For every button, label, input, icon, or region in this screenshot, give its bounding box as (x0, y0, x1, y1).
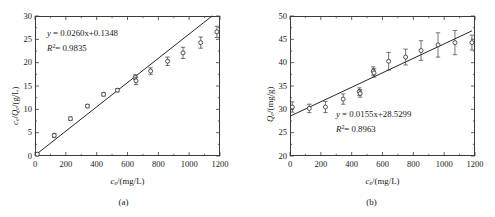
x-tick-label: 1200 (200, 160, 240, 169)
y-tick-label: 40 (270, 58, 287, 67)
y-tick-label: 45 (270, 35, 287, 44)
fit-equation-b: y = 0.0155x+28.5299 (336, 108, 411, 121)
chart-panel-a: y = 0.0260x+0.1348 R2= 0.9835 ce/(mg/L) … (0, 0, 247, 217)
y-tick-label: 35 (270, 82, 287, 91)
fit-r2-a: R2= 0.9835 (47, 40, 118, 55)
marker-open-circle (470, 41, 474, 45)
y-tick-label: 5 (15, 128, 32, 137)
sub-caption-a: (a) (0, 197, 247, 207)
marker-open-circle (134, 79, 138, 83)
regression-line (290, 31, 472, 116)
y-tick-label: 10 (15, 105, 32, 114)
data-point (470, 35, 474, 50)
data-point (52, 133, 56, 137)
data-point (85, 104, 89, 108)
y-tick-label: 25 (15, 35, 32, 44)
marker-open-circle (181, 51, 185, 55)
marker-open-circle (372, 71, 376, 75)
data-point (115, 88, 119, 92)
marker-open-circle (215, 30, 219, 34)
sub-caption-b: (b) (248, 197, 495, 207)
y-tick-label: 15 (15, 82, 32, 91)
marker-open-circle (307, 106, 311, 110)
fit-annotation-b: y = 0.0155x+28.5299 R2= 0.8963 (336, 108, 411, 136)
y-tick-label: 25 (270, 128, 287, 137)
data-point (436, 33, 440, 57)
marker-open-circle (419, 49, 423, 53)
data-point (341, 94, 345, 104)
data-point (165, 57, 169, 65)
marker-open-circle (323, 105, 327, 109)
y-tick-label: 20 (270, 152, 287, 161)
y-tick-label: 20 (15, 58, 32, 67)
figure-container: y = 0.0260x+0.1348 R2= 0.9835 ce/(mg/L) … (0, 0, 495, 217)
data-point (68, 117, 72, 121)
marker-open-circle (102, 92, 106, 96)
marker-open-circle (115, 88, 119, 92)
data-point (386, 52, 390, 70)
marker-open-circle (404, 55, 408, 59)
y-tick-label: 30 (15, 12, 32, 21)
marker-open-circle (68, 117, 72, 121)
marker-open-circle (199, 41, 203, 45)
x-axis-title-a: ce/(mg/L) (35, 176, 220, 186)
y-tick-label: 50 (270, 12, 287, 21)
y-tick-label: 0 (15, 152, 32, 161)
data-point (453, 30, 457, 54)
data-point (35, 152, 39, 156)
marker-open-circle (436, 43, 440, 47)
fit-r2-b: R2= 0.8963 (336, 121, 411, 136)
marker-open-circle (341, 97, 345, 101)
marker-open-circle (35, 152, 39, 156)
marker-open-circle (85, 104, 89, 108)
data-point (419, 41, 423, 61)
data-point (307, 104, 311, 112)
data-point (101, 92, 105, 96)
data-point (181, 47, 185, 58)
x-tick-label: 1200 (455, 160, 495, 169)
x-axis-title-b: ce/(mg/L) (290, 176, 475, 186)
fit-equation-a: y = 0.0260x+0.1348 (47, 27, 118, 40)
data-point (199, 37, 203, 48)
data-point (323, 101, 327, 112)
marker-open-circle (52, 133, 56, 137)
chart-panel-b: y = 0.0155x+28.5299 R2= 0.8963 ce/(mg/L)… (248, 0, 495, 217)
marker-open-circle (387, 59, 391, 63)
marker-open-circle (290, 105, 294, 109)
y-tick-label: 30 (270, 105, 287, 114)
data-point (148, 68, 152, 75)
data-point (290, 102, 294, 112)
marker-open-circle (358, 91, 362, 95)
fit-annotation-a: y = 0.0260x+0.1348 R2= 0.9835 (47, 27, 118, 55)
marker-open-circle (166, 59, 170, 63)
marker-open-circle (149, 69, 153, 73)
marker-open-circle (453, 41, 457, 45)
